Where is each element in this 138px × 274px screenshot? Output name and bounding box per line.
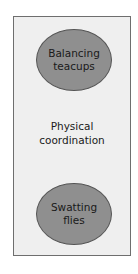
axis-label-line: Physical <box>14 119 130 133</box>
axis-label-physical-coordination: Physical coordination <box>14 119 130 147</box>
node-label: Swatting flies <box>51 201 97 227</box>
node-label-line: Balancing <box>48 47 100 59</box>
node-swatting-flies: Swatting flies <box>36 183 112 245</box>
axis-label-line: coordination <box>14 133 130 147</box>
node-label-line: teacups <box>53 60 95 72</box>
node-label-line: flies <box>63 214 84 226</box>
node-label: Balancing teacups <box>48 47 100 73</box>
node-label-line: Swatting <box>51 201 97 213</box>
node-balancing-teacups: Balancing teacups <box>36 29 112 91</box>
diagram-panel: Balancing teacups Physical coordination … <box>13 16 131 256</box>
